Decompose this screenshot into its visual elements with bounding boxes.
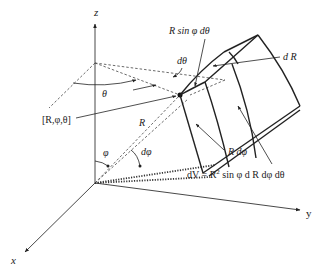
phi-label: φ [103,147,109,158]
box-top-front-edge [180,82,205,95]
box-back-right-edge [258,35,300,106]
x-axis [25,183,95,252]
phi-angles: φ dφ [95,146,152,168]
theta-angle: θ [73,80,156,99]
box-front-mid-edge [205,82,229,167]
theta-label: θ [102,88,107,99]
d-theta-pointer [173,68,182,77]
projection-dash-left [49,63,95,108]
point-label: [R,φ,θ] [42,114,71,125]
radius-line-2 [95,99,188,183]
box-top-far-edge [205,35,258,82]
phi-dot [107,165,110,168]
d-phi-arc [131,150,140,166]
r-d-phi-label: R dφ [227,146,248,157]
r-sin-phi-d-theta-pointer [195,39,205,86]
d-r-label: d R [283,51,297,62]
volume-formula: dV = R2 sin φ d R dφ dθ [187,106,285,180]
projection-dash-upper [95,63,225,80]
d-r-pointer [213,57,280,66]
z-axis-label: z [93,6,99,18]
d-phi-label: dφ [141,146,152,157]
axes: z x y [10,6,312,266]
d-phi-dot [139,165,142,168]
theta-arc [73,80,136,85]
point-label-group: [R,φ,θ] [42,93,183,126]
box-front-left-edge [180,95,203,173]
projection-dash-lower [95,63,180,95]
spherical-volume-element-diagram: z x y θ dθ φ dφ R [R,φ,θ] [0,0,323,275]
x-axis-label: x [10,254,16,266]
volume-formula-text: dV = R2 sin φ d R dφ dθ [187,168,285,180]
volume-formula-suffix: sin φ d R dφ dθ [220,169,285,180]
y-axis [95,183,300,210]
d-theta: dθ [173,55,187,77]
r-sin-phi-d-theta-label: R sin φ dθ [168,25,210,36]
d-theta-label: dθ [177,55,187,66]
radius-line-1 [95,95,180,183]
box-front-bottom-edge [203,106,300,173]
theta-arrow-2 [133,85,156,90]
y-axis-label: y [306,207,312,219]
radius-label: R [138,117,145,128]
volume-formula-prefix: dV = R [187,169,217,180]
phi-arc [95,161,108,166]
